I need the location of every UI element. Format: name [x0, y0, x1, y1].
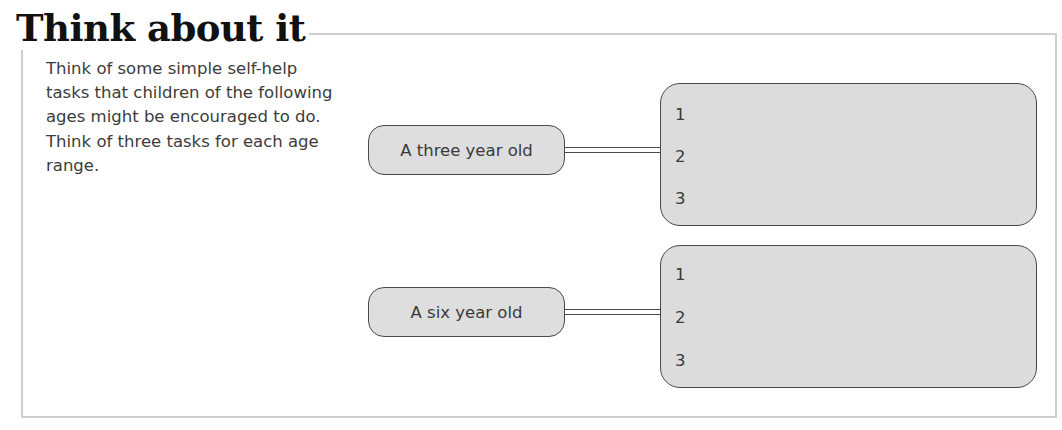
answer-panel-six: 1 2 3 — [660, 245, 1037, 388]
age-label-text: A six year old — [411, 303, 523, 322]
answer-row-2[interactable]: 2 — [675, 147, 686, 166]
answer-row-1[interactable]: 1 — [675, 265, 686, 284]
age-label-six: A six year old — [368, 287, 565, 337]
section-title: Think about it — [16, 6, 309, 50]
answer-row-3[interactable]: 3 — [675, 351, 686, 370]
answer-row-1[interactable]: 1 — [675, 105, 686, 124]
intro-text: Think of some simple self-help tasks tha… — [46, 57, 336, 178]
connector-line — [565, 147, 661, 153]
age-label-text: A three year old — [400, 141, 533, 160]
answer-row-3[interactable]: 3 — [675, 189, 686, 208]
answer-row-2[interactable]: 2 — [675, 308, 686, 327]
answer-panel-three: 1 2 3 — [660, 83, 1037, 226]
age-label-three: A three year old — [368, 125, 565, 175]
connector-line — [565, 309, 661, 315]
